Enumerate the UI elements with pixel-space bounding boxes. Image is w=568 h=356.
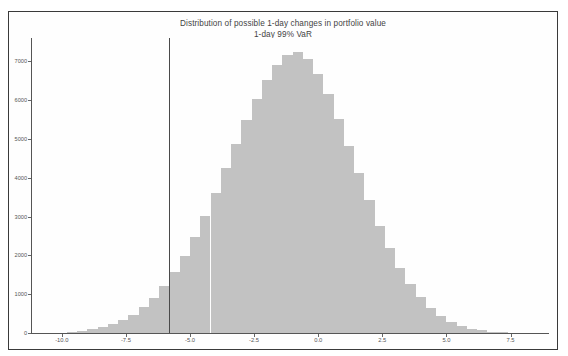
histogram-bar	[200, 216, 210, 333]
x-tick-label: -5.0	[185, 337, 195, 343]
x-tick-label: 7.5	[507, 337, 515, 343]
x-tick-label: -10.0	[55, 337, 68, 343]
histogram-bar	[221, 168, 231, 333]
y-tick-mark	[28, 217, 31, 218]
x-tick-label: 0.0	[314, 337, 322, 343]
y-tick-mark	[28, 61, 31, 62]
y-tick-label: 7000	[15, 58, 27, 64]
y-tick-label: 1000	[15, 291, 27, 297]
histogram-bar	[457, 326, 467, 333]
histogram-bar	[446, 322, 456, 333]
x-axis-spine	[31, 333, 549, 334]
histogram-bar	[293, 52, 303, 333]
histogram-bar	[139, 307, 149, 333]
histogram-bar	[211, 193, 221, 334]
histogram-bar	[272, 65, 282, 333]
histogram-bar	[344, 146, 354, 333]
histogram-bar	[385, 248, 395, 333]
plot-inner	[31, 38, 549, 334]
y-tick-mark	[28, 100, 31, 101]
histogram-bar	[395, 268, 405, 333]
y-tick-mark	[28, 294, 31, 295]
y-tick-label: 4000	[15, 175, 27, 181]
histogram-bar	[323, 94, 333, 333]
figure-frame: Distribution of possible 1-day changes i…	[8, 11, 558, 350]
y-tick-mark	[28, 255, 31, 256]
histogram-bar	[426, 308, 436, 333]
histogram-bar	[405, 284, 415, 333]
histogram-bar	[364, 200, 374, 333]
histogram-bar	[108, 324, 118, 333]
histogram-bar	[375, 226, 385, 333]
histogram-bar	[334, 119, 344, 333]
y-tick-mark	[28, 178, 31, 179]
histogram-bar	[118, 320, 128, 333]
histogram-bar	[252, 99, 262, 333]
histogram-bar	[436, 316, 446, 333]
y-axis-spine	[31, 38, 32, 334]
x-tick-label: 2.5	[378, 337, 386, 343]
histogram-bar	[180, 256, 190, 333]
histogram-bar	[282, 55, 292, 333]
histogram-bar	[313, 74, 323, 333]
chart-title: Distribution of possible 1-day changes i…	[9, 18, 557, 29]
histogram-bar	[262, 80, 272, 333]
y-tick-mark	[28, 333, 31, 334]
histogram-bar	[241, 120, 251, 333]
y-tick-label: 5000	[15, 136, 27, 142]
var-threshold-line	[169, 38, 170, 333]
x-tick-label: 5.0	[442, 337, 450, 343]
y-tick-label: 0	[24, 330, 27, 336]
histogram-bar	[416, 297, 426, 333]
histogram-bar	[354, 173, 364, 333]
histogram-bar	[231, 144, 241, 333]
y-tick-label: 2000	[15, 252, 27, 258]
x-tick-label: -2.5	[249, 337, 259, 343]
x-tick-label: -7.5	[121, 337, 131, 343]
y-tick-label: 6000	[15, 97, 27, 103]
histogram-bar	[303, 59, 313, 333]
histogram-bar	[159, 286, 169, 333]
histogram-bar	[169, 272, 179, 333]
histogram-bar	[149, 298, 159, 333]
histogram-bar	[190, 237, 200, 333]
y-tick-label: 3000	[15, 214, 27, 220]
plot-area: 01000200030004000500060007000 -10.0-7.5-…	[31, 38, 549, 334]
y-tick-mark	[28, 139, 31, 140]
histogram-bar	[128, 315, 138, 333]
chart-title-block: Distribution of possible 1-day changes i…	[9, 18, 557, 40]
